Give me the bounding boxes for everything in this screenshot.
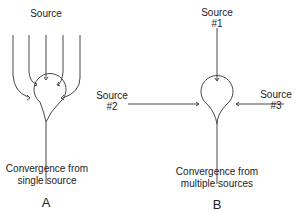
input-axon-1 xyxy=(13,35,28,97)
panel-a-caption-line2: single source xyxy=(0,175,94,187)
input-axon-2 xyxy=(29,35,36,84)
panel-b-caption-line2: multiple sources xyxy=(167,178,267,190)
panel-b-caption-line1: Convergence from xyxy=(167,166,267,178)
source-2-number: #2 xyxy=(90,101,134,113)
source-1-number: #1 xyxy=(195,18,239,30)
panel-b-letter: B xyxy=(207,198,227,212)
panel-a-neuron xyxy=(13,35,80,184)
panel-a-letter: A xyxy=(36,196,56,210)
panel-a-caption-line1: Convergence from xyxy=(0,163,94,175)
source-3-number: #3 xyxy=(254,100,297,112)
panel-a-source-label: Source xyxy=(24,8,68,20)
